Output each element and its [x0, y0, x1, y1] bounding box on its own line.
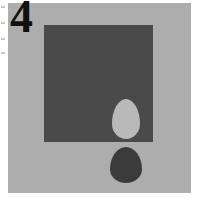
edge-mark [1, 22, 5, 24]
edge-mark [1, 6, 5, 8]
figure-panel: 4 [0, 0, 199, 200]
edge-mark [1, 38, 5, 40]
dark-egg-shape [110, 147, 142, 183]
edge-mark [1, 52, 5, 54]
edge-registration-marks [1, 6, 6, 56]
panel-label: 4 [10, 0, 33, 40]
